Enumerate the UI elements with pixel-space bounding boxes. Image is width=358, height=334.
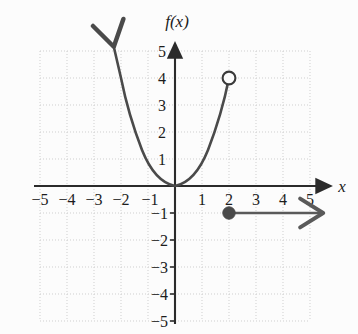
y-tick-label: −4 [151,286,168,303]
y-tick-labels-negative: −1 −2 −3 −4 −5 [151,205,168,330]
y-tick-label: 2 [158,124,166,141]
y-axis-label: f(x) [165,12,189,31]
open-endpoint-marker [223,72,236,85]
y-tick-labels-positive: 5 4 3 2 1 [158,43,166,168]
x-tick-label: 5 [306,191,314,208]
parabola-curve [114,46,230,187]
x-tick-label: 2 [225,191,233,208]
x-tick-label: 1 [198,191,206,208]
x-tick-label: −5 [31,191,48,208]
x-tick-label: 3 [252,191,260,208]
piecewise-function-graph: f(x) x −5 −4 −3 −2 −1 1 2 3 4 5 5 4 3 2 … [0,0,358,334]
y-tick-label: −1 [151,205,168,222]
y-tick-label: 3 [158,97,166,114]
y-tick-label: −2 [151,232,168,249]
y-tick-label: 1 [158,151,166,168]
x-tick-label: 4 [279,191,287,208]
x-axis-label: x [337,177,346,196]
x-tick-labels: −5 −4 −3 −2 −1 1 2 3 4 5 [31,191,314,208]
y-tick-label: −3 [151,259,168,276]
x-tick-label: −3 [85,191,102,208]
x-tick-label: −2 [112,191,129,208]
y-tick-label: 5 [158,43,166,60]
y-tick-label: −5 [151,313,168,330]
filled-endpoint-marker [223,207,235,219]
x-tick-label: −4 [58,191,75,208]
y-tick-label: 4 [158,70,166,87]
graph-svg: f(x) x −5 −4 −3 −2 −1 1 2 3 4 5 5 4 3 2 … [0,0,358,334]
